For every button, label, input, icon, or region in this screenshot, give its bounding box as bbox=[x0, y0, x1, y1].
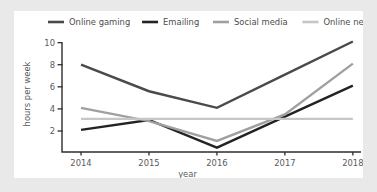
legend-item[interactable]: Online gaming bbox=[48, 17, 130, 27]
y-axis-title: hours per week bbox=[22, 61, 32, 126]
y-tick-label: 8 bbox=[50, 60, 55, 70]
series-line bbox=[81, 42, 353, 108]
legend-label: Emailing bbox=[163, 17, 199, 27]
legend-item[interactable]: Emailing bbox=[142, 17, 199, 27]
chart-card: Online gamingEmailingSocial mediaOnline … bbox=[14, 11, 363, 178]
y-tick-label: 4 bbox=[50, 104, 55, 114]
legend-label: Online newspapers bbox=[323, 17, 363, 27]
x-tick-label: 2015 bbox=[138, 158, 159, 168]
x-tick-label: 2018 bbox=[342, 158, 363, 168]
x-tick-label: 2014 bbox=[70, 158, 91, 168]
legend-item[interactable]: Social media bbox=[213, 17, 288, 27]
x-tick-label: 2016 bbox=[206, 158, 227, 168]
y-tick-label: 6 bbox=[50, 82, 55, 92]
y-tick-label: 10 bbox=[44, 38, 55, 48]
y-tick-label: 2 bbox=[50, 126, 55, 136]
x-tick-label: 2017 bbox=[274, 158, 295, 168]
legend-label: Social media bbox=[234, 17, 288, 27]
series-line bbox=[81, 64, 353, 141]
x-axis-title: year bbox=[178, 169, 197, 178]
legend-item[interactable]: Online newspapers bbox=[302, 17, 363, 27]
legend-label: Online gaming bbox=[69, 17, 130, 27]
line-chart: Online gamingEmailingSocial mediaOnline … bbox=[14, 11, 363, 178]
chart-canvas: Online gamingEmailingSocial mediaOnline … bbox=[14, 11, 363, 178]
